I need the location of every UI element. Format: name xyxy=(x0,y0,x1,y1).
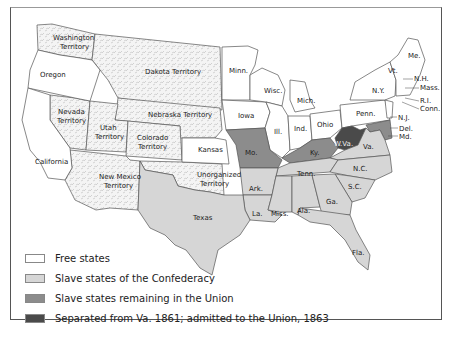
label-minn: Minn. xyxy=(229,67,248,75)
label-ala: Ala. xyxy=(297,207,310,215)
label-kansas: Kansas xyxy=(198,146,223,154)
legend-label: Slave states of the Confederacy xyxy=(55,273,215,284)
label-washington-1: Washington xyxy=(53,34,94,42)
label-ga: Ga. xyxy=(326,198,338,206)
label-nevada-1: Nevada xyxy=(58,108,85,116)
label-mo: Mo. xyxy=(245,149,257,157)
label-utah-2: Territory xyxy=(94,133,124,141)
label-colorado-1: Colorado xyxy=(137,134,168,142)
label-ri: R.I. xyxy=(420,97,431,105)
label-wva: W.Va. xyxy=(334,140,353,148)
label-me: Me. xyxy=(408,52,421,60)
label-nh: N.H. xyxy=(414,75,429,83)
label-ohio: Ohio xyxy=(317,121,333,129)
label-nevada-2: Territory xyxy=(56,117,86,125)
label-del: Del. xyxy=(399,125,413,133)
label-fla: Fla. xyxy=(352,249,365,257)
label-nj: N.J. xyxy=(398,114,410,122)
label-sc: S.C. xyxy=(348,183,362,191)
label-penn: Penn. xyxy=(356,110,375,118)
free-states-swatch xyxy=(25,254,45,263)
legend-item-confederacy: Slave states of the Confederacy xyxy=(25,268,329,288)
label-conn: Conn. xyxy=(420,105,440,113)
legend-item-west-virginia: Separated from Va. 1861; admitted to the… xyxy=(25,308,329,328)
union-slave-states-swatch xyxy=(25,294,45,303)
label-unorganized-1: Unorganized xyxy=(197,171,241,179)
confederacy-swatch xyxy=(25,274,45,283)
label-washington-2: Territory xyxy=(59,43,89,51)
map-legend: Free states Slave states of the Confeder… xyxy=(25,248,329,328)
label-unorganized-2: Territory xyxy=(199,180,229,188)
label-miss: Miss. xyxy=(271,210,289,218)
label-nc: N.C. xyxy=(353,165,368,173)
label-tenn: Tenn. xyxy=(296,170,316,178)
legend-item-free-states: Free states xyxy=(25,248,329,268)
label-new-mexico-2: Territory xyxy=(103,182,133,190)
west-virginia-swatch xyxy=(25,314,45,323)
label-la: La. xyxy=(252,210,262,218)
label-nebraska: Nebraska Territory xyxy=(148,111,212,119)
label-mass: Mass. xyxy=(420,84,440,92)
label-ky: Ky. xyxy=(310,149,319,157)
label-new-mexico-1: New Mexico xyxy=(99,173,141,181)
label-ill: Ill. xyxy=(274,128,282,136)
legend-label: Free states xyxy=(55,253,110,264)
label-colorado-2: Territory xyxy=(137,143,167,151)
label-iowa: Iowa xyxy=(238,112,254,120)
legend-label: Slave states remaining in the Union xyxy=(55,293,234,304)
label-va: Va. xyxy=(363,143,374,151)
legend-item-union-slave-states: Slave states remaining in the Union xyxy=(25,288,329,308)
label-dakota: Dakota Territory xyxy=(145,68,201,76)
label-oregon: Oregon xyxy=(40,71,66,79)
michigan xyxy=(290,80,315,112)
label-ark: Ark. xyxy=(249,185,263,193)
label-wisc: Wisc. xyxy=(264,87,282,95)
label-mich: Mich. xyxy=(297,97,316,105)
label-vt: Vt. xyxy=(388,67,398,75)
label-california: California xyxy=(35,158,68,166)
label-ind: Ind. xyxy=(294,125,307,133)
label-md: Md. xyxy=(399,133,412,141)
legend-label: Separated from Va. 1861; admitted to the… xyxy=(55,313,329,324)
label-texas: Texas xyxy=(192,214,213,222)
label-utah-1: Utah xyxy=(100,124,117,132)
label-ny: N.Y. xyxy=(372,87,385,95)
